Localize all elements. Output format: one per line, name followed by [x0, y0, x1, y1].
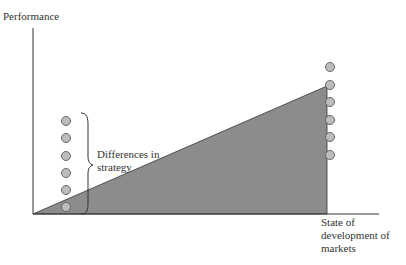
differences-in-strategy-label: Differences in strategy — [97, 148, 177, 174]
x-axis-label-line-2: development of — [321, 229, 406, 242]
left-circles — [62, 117, 71, 212]
brace-label-line-1: Differences in — [97, 148, 177, 161]
x-axis-label: State of development of markets — [321, 216, 406, 255]
y-axis-label: Performance — [3, 10, 59, 23]
brace-label-line-2: strategy — [97, 161, 177, 174]
performance-area — [33, 86, 327, 214]
x-axis-label-line-3: markets — [321, 242, 406, 255]
x-axis-label-line-1: State of — [321, 216, 406, 229]
